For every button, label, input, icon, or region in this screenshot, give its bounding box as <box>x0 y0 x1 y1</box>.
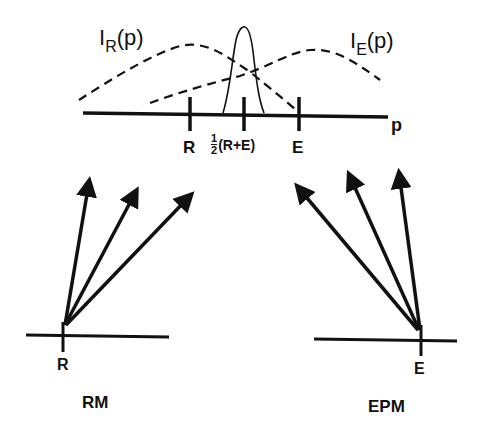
diagram-canvas <box>0 0 481 439</box>
ir-label: IR(p) <box>99 27 144 49</box>
tick-midpoint-label: 1 2 (R+E) <box>211 133 255 156</box>
epm-baseline <box>314 339 457 341</box>
p-axis <box>83 113 388 117</box>
axis-variable-label: p <box>391 116 402 134</box>
tick-e-label: E <box>292 139 303 156</box>
epm-point-label: E <box>414 361 425 377</box>
tick-r-label: R <box>183 139 195 156</box>
epm-title: EPM <box>368 398 405 415</box>
rm-baseline <box>26 335 169 337</box>
ie-curve <box>150 50 380 103</box>
rm-title: RM <box>82 394 108 411</box>
rm-point-label: R <box>57 357 69 373</box>
ie-label: IE(p) <box>350 30 394 52</box>
epm-arrow-1 <box>302 192 418 330</box>
